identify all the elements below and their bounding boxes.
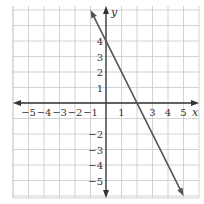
y-axis-label: y <box>110 6 118 19</box>
tick-labels: −5−4−3−2−113454321−2−3−4−5xy <box>21 6 199 187</box>
x-tick-label: 4 <box>165 107 171 118</box>
y-tick-label: −5 <box>88 176 103 187</box>
y-tick-label: 2 <box>97 67 103 78</box>
x-tick-label: 5 <box>180 107 186 118</box>
x-tick-label: −2 <box>68 107 83 118</box>
y-tick-label: −2 <box>88 129 103 140</box>
x-tick-label: −5 <box>21 107 36 118</box>
x-axis-arrow-left-icon <box>13 100 21 106</box>
x-tick-label: −3 <box>52 107 67 118</box>
y-tick-label: −3 <box>88 145 103 156</box>
y-axis-arrow-down-icon <box>103 190 109 198</box>
x-tick-label: −1 <box>83 107 98 118</box>
y-tick-label: 4 <box>97 36 103 47</box>
x-tick-label: 1 <box>118 107 124 118</box>
y-tick-label: 1 <box>97 83 103 94</box>
x-tick-label: −4 <box>37 107 52 118</box>
y-tick-label: 3 <box>97 52 103 63</box>
x-tick-label: 3 <box>149 107 155 118</box>
line-arrow-start-icon <box>91 10 97 18</box>
x-axis-label: x <box>192 106 199 119</box>
axes <box>13 6 199 198</box>
y-tick-label: −4 <box>88 160 103 171</box>
line-graph: −5−4−3−2−113454321−2−3−4−5xy <box>0 0 204 204</box>
line-arrow-end-icon <box>177 188 183 196</box>
